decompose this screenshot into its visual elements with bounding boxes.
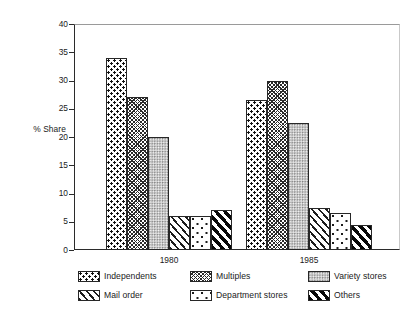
bar-chart: % Share 4035302520151050 19801985 Indepe… xyxy=(0,0,412,316)
y-axis-tick-label: 5 xyxy=(42,217,68,225)
legend-item-label: Variety stores xyxy=(334,272,387,281)
bar xyxy=(148,137,169,250)
legend-item[interactable]: Department stores xyxy=(190,289,288,302)
y-axis-tick-label: 25 xyxy=(42,104,68,112)
legend-swatch-weave-icon xyxy=(190,271,212,282)
bar xyxy=(246,100,267,250)
legend: IndependentsMultiplesVariety storesMail … xyxy=(78,270,400,310)
legend-item[interactable]: Others xyxy=(308,289,360,302)
y-axis-tick-label: 30 xyxy=(42,76,68,84)
legend-swatch-dots-dense-icon xyxy=(78,271,100,282)
y-axis-tick-label: 10 xyxy=(42,189,68,197)
legend-item-label: Independents xyxy=(104,272,157,281)
bar xyxy=(127,97,148,250)
y-axis-tick-label: 15 xyxy=(42,161,68,169)
bar xyxy=(288,123,309,250)
legend-swatch-stipple-icon xyxy=(308,271,330,282)
y-axis-tick-label: 20 xyxy=(42,133,68,141)
x-axis-group-label: 1985 xyxy=(289,256,329,264)
y-axis-tick-label: 35 xyxy=(42,48,68,56)
legend-item-label: Mail order xyxy=(104,291,143,300)
bar xyxy=(190,216,211,250)
legend-item-label: Department stores xyxy=(216,291,288,300)
bar xyxy=(351,225,372,250)
bar xyxy=(106,58,127,250)
legend-item[interactable]: Independents xyxy=(78,270,157,283)
bars-layer xyxy=(74,24,400,250)
bar xyxy=(267,81,288,251)
bar xyxy=(309,208,330,250)
y-axis-tick-mark xyxy=(69,250,74,251)
bar xyxy=(211,210,232,250)
y-axis-tick-label: 40 xyxy=(42,20,68,28)
legend-item[interactable]: Variety stores xyxy=(308,270,387,283)
legend-swatch-bold-diag-icon xyxy=(308,290,330,301)
legend-item[interactable]: Multiples xyxy=(190,270,250,283)
legend-swatch-diag-icon xyxy=(78,290,100,301)
legend-swatch-speckle-icon xyxy=(190,290,212,301)
x-axis-group-label: 1980 xyxy=(149,256,189,264)
legend-item-label: Multiples xyxy=(216,272,250,281)
bar xyxy=(169,216,190,250)
y-axis-tick-label: 0 xyxy=(42,246,68,254)
bar xyxy=(330,213,351,250)
legend-item[interactable]: Mail order xyxy=(78,289,143,302)
legend-item-label: Others xyxy=(334,291,360,300)
